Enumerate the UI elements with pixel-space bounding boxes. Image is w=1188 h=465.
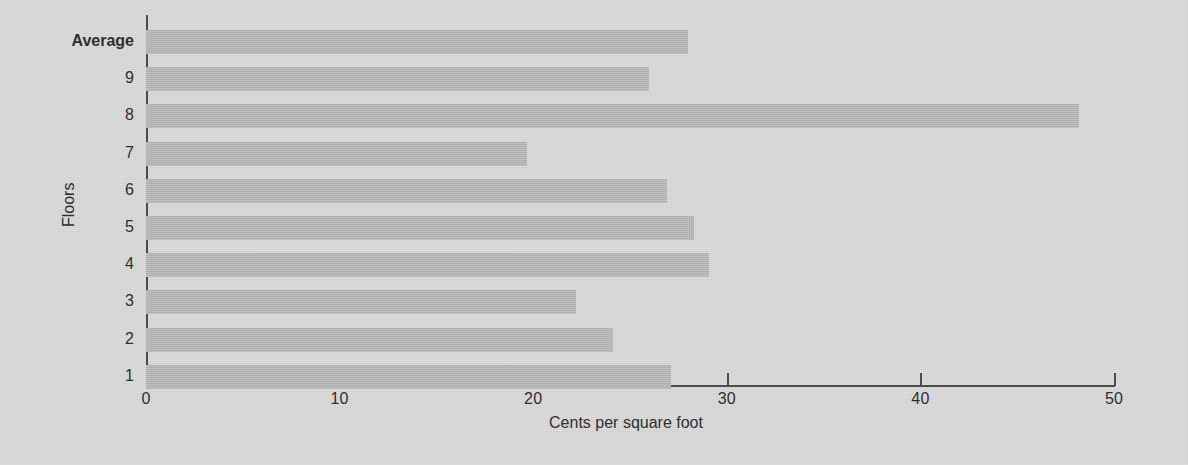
y-axis-category-label: 8	[0, 106, 134, 124]
x-axis-tick-label: 40	[911, 390, 929, 408]
x-axis-tick-label: 30	[718, 390, 736, 408]
bar	[146, 290, 576, 314]
bar-fill	[146, 104, 1079, 128]
bar	[146, 67, 649, 91]
x-axis-tick-label: 20	[524, 390, 542, 408]
y-axis-category-label: 2	[0, 330, 134, 348]
x-axis-title: Cents per square foot	[0, 414, 1188, 432]
bar	[146, 216, 694, 240]
y-axis-category-label: Average	[0, 32, 134, 50]
bar-fill	[146, 30, 688, 54]
x-axis-title-text: Cents per square foot	[549, 414, 703, 431]
bar-fill	[146, 142, 527, 166]
y-axis-category-label: 5	[0, 218, 134, 236]
x-axis-tick-label: 0	[141, 390, 150, 408]
bar	[146, 253, 709, 277]
x-axis-tick-label: 50	[1105, 390, 1123, 408]
bar	[146, 328, 613, 352]
y-axis-category-label: 4	[0, 255, 134, 273]
bar	[146, 179, 667, 203]
bar	[146, 30, 688, 54]
bar	[146, 365, 671, 389]
bar-fill	[146, 67, 649, 91]
bar-fill	[146, 290, 576, 314]
y-axis-category-label: 9	[0, 69, 134, 87]
bar-fill	[146, 179, 667, 203]
y-axis-category-label: 7	[0, 144, 134, 162]
bar-fill	[146, 216, 694, 240]
y-axis-category-label: 3	[0, 292, 134, 310]
bar	[146, 104, 1079, 128]
bar	[146, 142, 527, 166]
y-axis-category-label: 6	[0, 181, 134, 199]
bar-fill	[146, 253, 709, 277]
y-axis-category-label: 1	[0, 367, 134, 385]
x-axis-tick-label: 10	[330, 390, 348, 408]
bar-fill	[146, 365, 671, 389]
bar-chart: Floors 01020304050 Average987654321 Cent…	[0, 0, 1188, 465]
bar-fill	[146, 328, 613, 352]
plot-area	[146, 15, 1114, 385]
x-axis-tick	[1114, 373, 1116, 386]
